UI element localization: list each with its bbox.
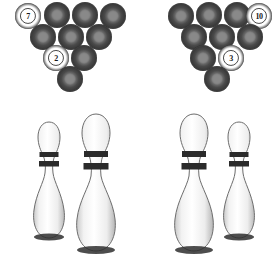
pin-3[interactable] <box>168 112 220 260</box>
ball-3[interactable]: 3 <box>218 45 244 71</box>
pin-2[interactable] <box>70 112 122 260</box>
ball-10[interactable]: 10 <box>246 3 272 29</box>
ball-2[interactable]: 2 <box>43 45 69 71</box>
ball-number-label: 10 <box>246 3 272 29</box>
ball-number-label: 7 <box>15 3 41 29</box>
pin-1[interactable] <box>28 120 70 246</box>
ball-7[interactable]: 7 <box>15 3 41 29</box>
ball-number-label: 3 <box>218 45 244 71</box>
ball-number-label: 2 <box>43 45 69 71</box>
pin-4[interactable] <box>218 120 260 246</box>
bowling-scene: 7 2 <box>0 0 274 274</box>
